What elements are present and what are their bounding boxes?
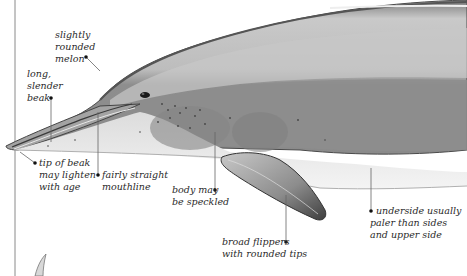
annotation-speckled: body may be speckled [172, 184, 229, 208]
annotation-mouthline: fairly straight mouthline [102, 169, 168, 193]
dorsal-fin-partial [35, 254, 46, 276]
annotation-melon: slightly rounded melon [55, 29, 95, 65]
annotation-underside: underside usually paler than sides and u… [376, 205, 461, 241]
annotation-beak-tip: tip of beak may lighten with age [39, 157, 96, 193]
dolphin-eye [140, 92, 150, 98]
annotation-beak: long, slender beak [27, 68, 63, 104]
annotation-flippers: broad flippers with rounded tips [222, 236, 307, 260]
